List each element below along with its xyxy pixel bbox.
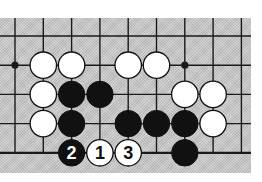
white-stone bbox=[115, 52, 141, 78]
black-stone bbox=[87, 81, 113, 107]
black-stone bbox=[172, 140, 198, 166]
white-stone bbox=[30, 110, 56, 136]
white-stone bbox=[172, 81, 198, 107]
white-stone bbox=[30, 52, 56, 78]
move-number-label: 3 bbox=[123, 143, 133, 163]
move-number-label: 1 bbox=[95, 143, 105, 163]
go-board: 213 bbox=[0, 18, 251, 173]
white-stone bbox=[200, 110, 226, 136]
white-stone bbox=[143, 52, 169, 78]
star-point bbox=[181, 62, 188, 69]
white-stone bbox=[200, 81, 226, 107]
black-stone bbox=[58, 81, 84, 107]
move-number-label: 2 bbox=[67, 143, 77, 163]
white-stone bbox=[30, 81, 56, 107]
star-point bbox=[11, 62, 18, 69]
board-grid: 213 bbox=[0, 18, 251, 173]
black-stone bbox=[58, 110, 84, 136]
black-stone bbox=[115, 110, 141, 136]
black-stone bbox=[143, 110, 169, 136]
black-stone bbox=[172, 110, 198, 136]
white-stone bbox=[58, 52, 84, 78]
